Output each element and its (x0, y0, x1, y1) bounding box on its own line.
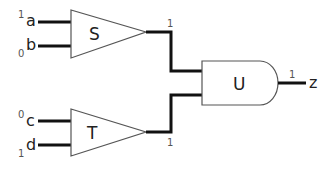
output-z-label: z (309, 73, 317, 92)
wire-s-to-u (146, 32, 202, 71)
gate-u-output-value: 1 (289, 69, 295, 80)
input-d-value: 1 (18, 148, 24, 159)
gate-u-label: U (233, 74, 245, 94)
input-a-value: 1 (18, 9, 24, 20)
input-b-label: b (26, 35, 36, 54)
input-a-label: a (26, 11, 36, 30)
gate-t-label: T (86, 123, 98, 143)
input-c-label: c (26, 111, 35, 130)
gate-s (71, 10, 146, 58)
gate-t-output-value: 1 (167, 137, 173, 148)
input-b-value: 0 (18, 48, 24, 59)
circuit-diagram: S T U a 1 b 0 c 0 d 1 1 1 1 z (0, 0, 333, 169)
wire-t-to-u (146, 95, 202, 132)
gate-t (71, 109, 146, 156)
gate-s-label: S (89, 24, 100, 44)
input-c-value: 0 (18, 109, 24, 120)
gate-s-output-value: 1 (167, 18, 173, 29)
input-d-label: d (26, 135, 36, 154)
